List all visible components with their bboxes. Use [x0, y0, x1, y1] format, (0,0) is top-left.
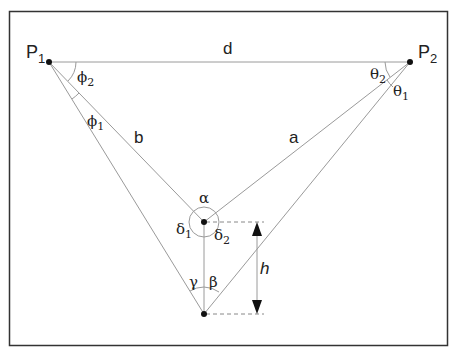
label-d: d	[223, 39, 232, 58]
label-a: a	[289, 128, 299, 147]
point-bottom	[201, 311, 207, 317]
point-p2	[407, 59, 413, 65]
label-alpha: α	[199, 189, 209, 207]
point-p1	[46, 59, 52, 65]
label-gamma: γ	[189, 273, 198, 291]
label-b: b	[134, 128, 143, 147]
label-h: h	[260, 259, 269, 278]
label-beta: β	[209, 273, 218, 291]
point-center	[201, 219, 207, 225]
geometry-diagram: P1 P2 d b a h ϕ2 ϕ1 θ2 θ1 α δ1 δ2 γ β	[0, 0, 454, 354]
